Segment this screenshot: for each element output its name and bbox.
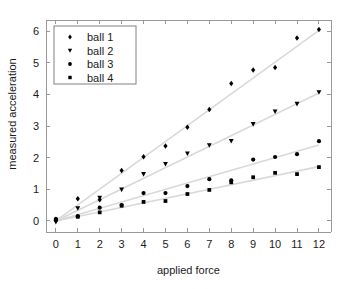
data-point-marker	[98, 206, 102, 210]
data-point-marker	[98, 211, 102, 215]
y-tick-label: 5	[33, 57, 39, 69]
plot-canvas: 0123456789101112 0123456 ball 1ball 2bal…	[0, 0, 351, 289]
x-tick-label: 11	[291, 238, 302, 250]
data-point-marker	[68, 62, 72, 66]
x-tick-label: 1	[75, 238, 81, 250]
data-point-marker	[76, 215, 80, 219]
data-point-marker	[229, 81, 233, 87]
data-point-marker	[76, 196, 80, 202]
data-point-marker	[141, 191, 145, 195]
legend-label: ball 3	[87, 58, 113, 70]
y-axis-label-container: measured acceleration	[0, 0, 22, 232]
x-tick-label: 4	[140, 238, 146, 250]
x-axis-label: applied force	[46, 264, 331, 276]
data-point-marker	[251, 67, 255, 73]
data-point-marker	[317, 139, 321, 143]
x-axis-tick-labels: 0123456789101112	[53, 238, 325, 250]
y-tick-label: 4	[33, 88, 39, 100]
legend: ball 1ball 2ball 3ball 4	[54, 26, 136, 84]
data-point-marker	[229, 180, 233, 184]
data-point-marker	[120, 204, 124, 208]
x-tick-label: 3	[119, 238, 125, 250]
x-tick-label: 10	[269, 238, 281, 250]
data-point-marker	[207, 177, 211, 181]
scatter-chart-figure: 0123456789101112 0123456 ball 1ball 2bal…	[0, 0, 351, 289]
data-point-marker	[273, 171, 277, 175]
data-point-marker	[186, 192, 190, 196]
y-tick-label: 3	[33, 120, 39, 132]
y-axis-label: measured acceleration	[6, 44, 18, 184]
data-point-marker	[251, 157, 255, 161]
legend-label: ball 4	[87, 72, 113, 84]
data-point-marker	[273, 155, 277, 159]
data-point-marker	[229, 139, 234, 144]
data-point-marker	[317, 165, 321, 169]
data-point-marker	[54, 218, 58, 222]
x-tick-label: 2	[97, 238, 103, 250]
data-point-marker	[295, 35, 299, 41]
data-point-marker	[207, 188, 211, 192]
x-tick-label: 5	[162, 238, 168, 250]
data-point-marker	[273, 65, 277, 71]
x-tick-label: 9	[250, 238, 256, 250]
y-tick-label: 2	[33, 152, 39, 164]
x-tick-label: 8	[228, 238, 234, 250]
data-point-marker	[251, 175, 255, 179]
x-tick-label: 7	[206, 238, 212, 250]
legend-label: ball 1	[87, 31, 113, 43]
data-point-marker	[141, 172, 146, 177]
y-tick-label: 6	[33, 25, 39, 37]
data-point-marker	[163, 191, 167, 195]
x-tick-label: 0	[53, 238, 59, 250]
x-tick-label: 12	[313, 238, 325, 250]
data-point-marker	[68, 76, 71, 79]
data-point-marker	[295, 172, 299, 176]
data-point-marker	[164, 199, 168, 203]
x-tick-label: 6	[184, 238, 190, 250]
data-point-marker	[185, 184, 189, 188]
y-tick-label: 1	[33, 183, 39, 195]
data-point-marker	[163, 143, 167, 149]
legend-label: ball 2	[87, 45, 113, 57]
y-tick-label: 0	[33, 215, 39, 227]
data-point-marker	[295, 152, 299, 156]
data-point-marker	[163, 162, 168, 167]
data-point-marker	[142, 200, 146, 204]
y-axis-tick-labels: 0123456	[33, 25, 39, 227]
